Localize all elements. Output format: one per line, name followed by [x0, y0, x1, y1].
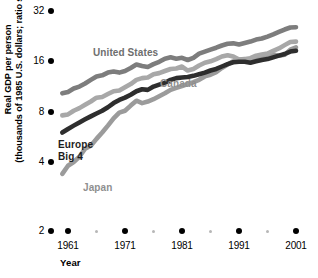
series-label-europe-line2: Big 4: [58, 151, 83, 162]
series-label-europe-line1: Europe: [58, 139, 93, 150]
series-line-europe-big-4: [62, 51, 296, 133]
series-label-europe-big-4: EuropeBig 4: [58, 139, 93, 162]
series-label-japan: Japan: [83, 182, 112, 193]
plot-area: [0, 0, 318, 278]
series-label-united-states: United States: [93, 47, 158, 58]
series-label-canada: Canada: [160, 78, 197, 89]
chart-figure: Real GDP per person (thousands of 1985 U…: [0, 0, 318, 278]
